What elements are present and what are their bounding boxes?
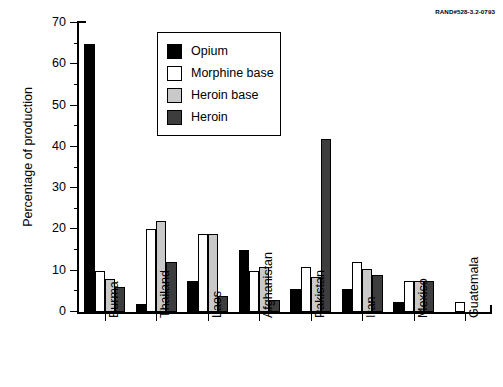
plot-area: 010203040506070 [77,23,491,314]
bar [352,262,362,312]
y-axis-minor-tick [74,167,79,168]
y-axis-tick: 50 [70,105,79,106]
x-axis-tick-label: Afghanistan [262,252,274,318]
y-axis-minor-tick [74,125,79,126]
bar [342,289,352,312]
y-axis-tick: 30 [70,187,79,188]
chart-figure: RAND#528-3.2-0793 Percentage of producti… [0,0,503,387]
bar [290,289,300,312]
y-axis-tick: 0 [70,311,79,312]
bar [393,302,403,312]
bar [301,267,311,312]
x-axis-tick-label: Pakistan [314,270,326,318]
bar-group [393,23,434,312]
y-axis-tick-label: 70 [52,15,66,29]
bar-group [290,23,331,312]
legend-swatch-icon [167,88,182,103]
bar [84,44,94,312]
legend-swatch-icon [167,110,182,125]
y-axis-tick: 20 [70,228,79,229]
y-axis-minor-tick [74,208,79,209]
x-axis-tick-label: Mexico [417,278,429,318]
chart-legend: OpiumMorphine baseHeroin baseHeroin [157,32,281,136]
source-credit-label: RAND#528-3.2-0793 [435,8,495,15]
bar-group [84,23,125,312]
bar [404,281,414,312]
x-axis-tick [311,312,312,321]
y-axis-tick-label: 60 [52,56,66,70]
legend-swatch-icon [167,66,182,81]
y-axis-tick-label: 10 [52,263,66,277]
legend-item-label: Opium [191,44,228,58]
x-axis-tick-label: Iran [365,296,377,318]
y-axis-tick-label: 20 [52,221,66,235]
y-axis-minor-tick [74,43,79,44]
bar [146,229,156,312]
bar [455,302,465,312]
y-axis-tick-label: 0 [59,304,66,318]
bar [95,271,105,312]
y-axis-title: Percentage of production [21,47,35,267]
y-axis-tick-label: 50 [52,98,66,112]
y-axis-tick-label: 30 [52,180,66,194]
bar [239,250,249,312]
y-axis-tick: 10 [70,270,79,271]
y-axis-tick: 60 [70,63,79,64]
legend-item: Heroin base [167,84,272,106]
legend-item: Morphine base [167,62,272,84]
y-axis-tick-label: 40 [52,139,66,153]
y-axis-minor-tick [74,249,79,250]
legend-item-label: Heroin base [191,88,258,102]
x-axis-tick-label: Guatemala [468,257,480,318]
bar [136,304,146,312]
legend-item: Opium [167,40,272,62]
y-axis-tick: 40 [70,146,79,147]
bar [249,271,259,312]
x-axis-tick-label: Thailand [159,270,171,318]
y-axis-minor-tick [74,290,79,291]
x-axis-tick [105,312,106,321]
x-axis-tick [208,312,209,321]
legend-swatch-icon [167,44,182,59]
x-axis-tick-label: Laos [211,291,223,318]
legend-item-label: Heroin [191,110,228,124]
x-axis-tick [414,312,415,321]
legend-item: Heroin [167,106,272,128]
x-axis-tick-label: Burma [108,281,120,318]
bar [198,234,208,312]
y-axis-tick: 70 [70,22,79,23]
y-axis-minor-tick [74,84,79,85]
bar [187,281,197,312]
bar-group [342,23,383,312]
legend-item-label: Morphine base [191,66,274,80]
